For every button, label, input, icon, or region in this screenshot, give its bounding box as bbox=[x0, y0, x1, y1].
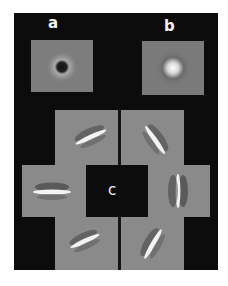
panel-c-center: c bbox=[86, 165, 148, 217]
gabor-bottom-right bbox=[121, 217, 184, 270]
figure-panel: a b bbox=[14, 13, 218, 270]
ring-icon bbox=[31, 40, 93, 92]
divider-bottom bbox=[118, 217, 121, 270]
blob-icon bbox=[142, 41, 204, 95]
gabor-top-right bbox=[121, 110, 184, 165]
filter-a-center-surround bbox=[31, 40, 93, 92]
divider-top bbox=[118, 110, 121, 165]
gabor-middle-left bbox=[22, 165, 86, 217]
gabor-top-left bbox=[55, 110, 118, 165]
gabor-bottom-left bbox=[55, 217, 118, 270]
label-c: c bbox=[108, 183, 116, 198]
filter-b-center-surround bbox=[142, 41, 204, 95]
label-a: a bbox=[48, 16, 58, 31]
gabor-middle-right bbox=[148, 165, 210, 217]
label-b: b bbox=[164, 19, 175, 34]
